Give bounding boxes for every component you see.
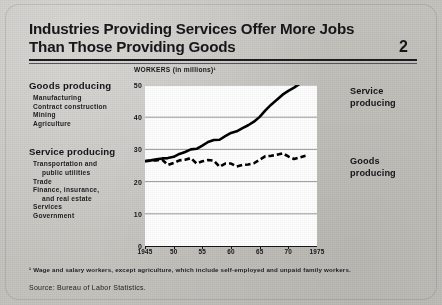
footnote: ¹ Wage and salary workers, except agricu… <box>29 266 429 273</box>
chart-subtitle-text: (in millions)¹ <box>173 66 216 73</box>
list-item: Government <box>33 212 129 221</box>
page-number: 2 <box>399 38 414 56</box>
list-item: Services <box>33 203 129 212</box>
x-axis-tick-mark <box>288 246 289 249</box>
x-axis-tick-mark <box>174 246 175 249</box>
y-axis-tick-label: 50 <box>134 82 142 89</box>
y-axis-tick-label: 10 <box>134 210 142 217</box>
header-rule-thick <box>29 59 417 61</box>
page-title-line-2: Than Those Providing Goods <box>29 38 236 56</box>
list-item: Contract construction <box>33 103 129 112</box>
annotation-service-line-1: Service <box>350 86 396 98</box>
chart-title-text: WORKERS <box>134 66 171 73</box>
x-axis-tick-label: 50 <box>170 248 178 255</box>
list-item: Manufacturing <box>33 94 129 103</box>
x-axis-tick-label: 65 <box>256 248 264 255</box>
legend-spacer <box>29 128 129 146</box>
plot-svg <box>145 85 317 246</box>
x-axis-tick-mark <box>231 246 232 249</box>
screenshot-root: Industries Providing Services Offer More… <box>0 0 442 305</box>
chart-card: Industries Providing Services Offer More… <box>5 4 437 300</box>
header: Industries Providing Services Offer More… <box>29 20 419 56</box>
plot-area <box>145 85 317 246</box>
annotation-goods-line-2: producing <box>350 168 396 180</box>
gridlines <box>145 85 317 214</box>
x-axis-tick-label: 1945 <box>137 248 152 255</box>
list-item: Trade <box>33 178 129 187</box>
y-axis-tick-label: 20 <box>134 178 142 185</box>
y-axis-tick-label: 30 <box>134 146 142 153</box>
annotation-goods-line-1: Goods <box>350 156 396 168</box>
source-line: Source: Bureau of Labor Statistics. <box>29 284 146 291</box>
x-axis: 194550556065701975 <box>145 248 340 260</box>
x-axis-tick-label: 55 <box>199 248 207 255</box>
list-item: Transportation and <box>33 160 129 169</box>
x-axis-tick-label: 1975 <box>309 248 324 255</box>
annotation-goods-producing: Goods producing <box>350 156 396 179</box>
y-axis: 01020304050 <box>128 85 142 246</box>
y-axis-tick-label: 40 <box>134 114 142 121</box>
x-axis-tick-label: 60 <box>227 248 235 255</box>
annotation-service-producing: Service producing <box>350 86 396 109</box>
title-row-secondary: Than Those Providing Goods 2 <box>29 38 414 56</box>
list-item: Mining <box>33 111 129 120</box>
header-rule-thin <box>29 63 417 64</box>
x-axis-tick-label: 70 <box>285 248 293 255</box>
page-title-line-1: Industries Providing Services Offer More… <box>29 20 419 38</box>
legend-list-goods: Manufacturing Contract construction Mini… <box>33 94 129 128</box>
series-line-goods-producing <box>145 153 306 167</box>
x-axis-tick-mark <box>260 246 261 249</box>
list-item: Finance, insurance, <box>33 186 129 195</box>
x-axis-tick-mark <box>145 246 146 249</box>
list-item: Agriculture <box>33 120 129 129</box>
legend-heading-service: Service producing <box>29 146 129 157</box>
legend-heading-goods: Goods producing <box>29 80 129 91</box>
annotation-service-line-2: producing <box>350 98 396 110</box>
list-item: public utilities <box>33 169 129 178</box>
list-item: and real estate <box>33 195 129 204</box>
chart-axis-title: WORKERS (in millions)¹ <box>134 66 216 73</box>
category-legend: Goods producing Manufacturing Contract c… <box>29 80 129 221</box>
line-chart: WORKERS (in millions)¹ 01020304050 19455… <box>128 66 343 256</box>
legend-list-service: Transportation and public utilities Trad… <box>33 160 129 220</box>
x-axis-tick-mark <box>202 246 203 249</box>
